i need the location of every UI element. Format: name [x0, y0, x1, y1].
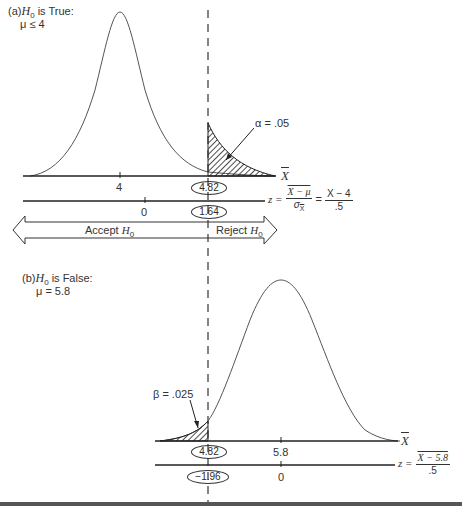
panel-b-critical-xbar: 4.82: [191, 445, 227, 459]
hypothesis-diagram: [0, 0, 462, 506]
panel-b-z-mean-tick: 0: [278, 472, 284, 483]
panel-a-z-mean-tick: 0: [141, 207, 147, 218]
panel-a-critical-z: 1.64: [191, 205, 227, 219]
panel-b-xbar-symbol: X: [401, 434, 409, 447]
panel-b-critical-z: −1.96: [187, 470, 229, 484]
panel-a-critical-xbar: 4.82: [191, 181, 227, 195]
beta-label: β = .025: [153, 389, 193, 400]
panel-a-condition: μ ≤ 4: [20, 19, 45, 30]
reject-region-label: Reject H0: [216, 224, 263, 239]
panel-a-curve: [30, 12, 275, 176]
accept-region-label: Accept H0: [85, 224, 134, 239]
panel-a-z-formula: z = X − μσX = X − 4.5: [268, 186, 353, 214]
panel-a-xbar-symbol: X: [281, 169, 289, 182]
page-bottom-edge: [0, 502, 462, 506]
panel-b-z-formula: z = X − 5.8.5: [398, 452, 450, 476]
panel-b-curve: [160, 280, 400, 441]
panel-b-mean-tick: 5.8: [273, 447, 288, 458]
alpha-label: α = .05: [255, 118, 289, 129]
panel-a-mean-tick: 4: [116, 182, 122, 193]
panel-b-condition: μ = 5.8: [36, 286, 70, 297]
